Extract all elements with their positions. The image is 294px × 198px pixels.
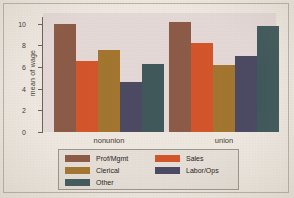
- legend-item: Prof/Mgmt: [65, 153, 128, 164]
- bar: [76, 61, 98, 132]
- legend-label: Prof/Mgmt: [96, 155, 128, 162]
- legend-column-right: SalesLabor/Ops: [155, 153, 219, 177]
- y-axis-tick-label: 10: [18, 20, 26, 27]
- bar: [54, 24, 76, 132]
- legend-label: Sales: [186, 155, 204, 162]
- legend-swatch: [65, 179, 90, 186]
- legend-swatch: [155, 155, 180, 162]
- y-axis-tick-label: 6: [22, 63, 26, 70]
- y-axis-title: mean of wage: [29, 50, 36, 96]
- legend-column-left: Prof/MgmtClericalOther: [65, 153, 128, 189]
- bar: [98, 50, 120, 132]
- legend-item: Sales: [155, 153, 219, 164]
- legend-swatch: [65, 155, 90, 162]
- y-axis-tick-mark: [38, 45, 43, 46]
- y-axis-tick-mark: [38, 110, 43, 111]
- legend-label: Other: [96, 179, 114, 186]
- y-axis-tick-mark: [38, 67, 43, 68]
- bar-group: [169, 17, 279, 132]
- y-axis-tick-mark: [38, 132, 43, 133]
- chart-page: mean of wage 0246810 nonunionunion Prof/…: [0, 0, 294, 198]
- legend-label: Labor/Ops: [186, 167, 219, 174]
- y-axis-tick-label: 8: [22, 42, 26, 49]
- bar: [235, 56, 257, 132]
- y-axis-line: [42, 17, 43, 132]
- y-axis-tick-label: 4: [22, 85, 26, 92]
- bar: [142, 64, 164, 132]
- plot-region: mean of wage 0246810 nonunionunion: [29, 13, 276, 133]
- y-axis-tick-mark: [38, 89, 43, 90]
- legend-swatch: [155, 167, 180, 174]
- bar: [213, 65, 235, 132]
- y-axis-tick-mark: [38, 24, 43, 25]
- bar-group: [54, 17, 164, 132]
- legend-item: Clerical: [65, 165, 128, 176]
- bar: [257, 26, 279, 132]
- x-axis-label: union: [215, 136, 233, 145]
- legend-item: Other: [65, 177, 128, 188]
- x-axis-label: nonunion: [94, 136, 125, 145]
- bar: [191, 43, 213, 132]
- legend-item: Labor/Ops: [155, 165, 219, 176]
- bar: [169, 22, 191, 132]
- chart-legend: Prof/MgmtClericalOther SalesLabor/Ops: [58, 149, 239, 190]
- legend-swatch: [65, 167, 90, 174]
- bar: [120, 82, 142, 132]
- y-axis-tick-label: 0: [22, 129, 26, 136]
- y-axis-tick-label: 2: [22, 107, 26, 114]
- legend-label: Clerical: [96, 167, 119, 174]
